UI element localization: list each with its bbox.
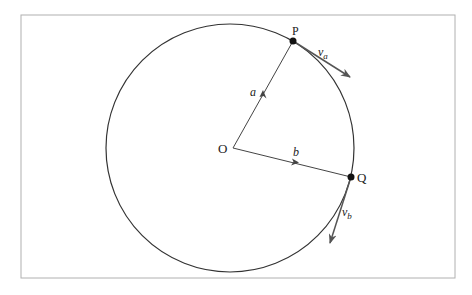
- label-b: b: [293, 145, 299, 159]
- label-vb-sub: b: [347, 211, 352, 221]
- label-va-sub: a: [323, 51, 328, 61]
- label-p: P: [292, 24, 299, 38]
- point-q: [348, 174, 355, 181]
- point-p: [290, 38, 297, 45]
- diagram-frame: [21, 15, 455, 278]
- label-o: O: [218, 141, 227, 156]
- label-q: Q: [357, 170, 367, 185]
- label-a: a: [250, 85, 256, 99]
- diagram-canvas: O P Q a b va vb: [0, 0, 472, 295]
